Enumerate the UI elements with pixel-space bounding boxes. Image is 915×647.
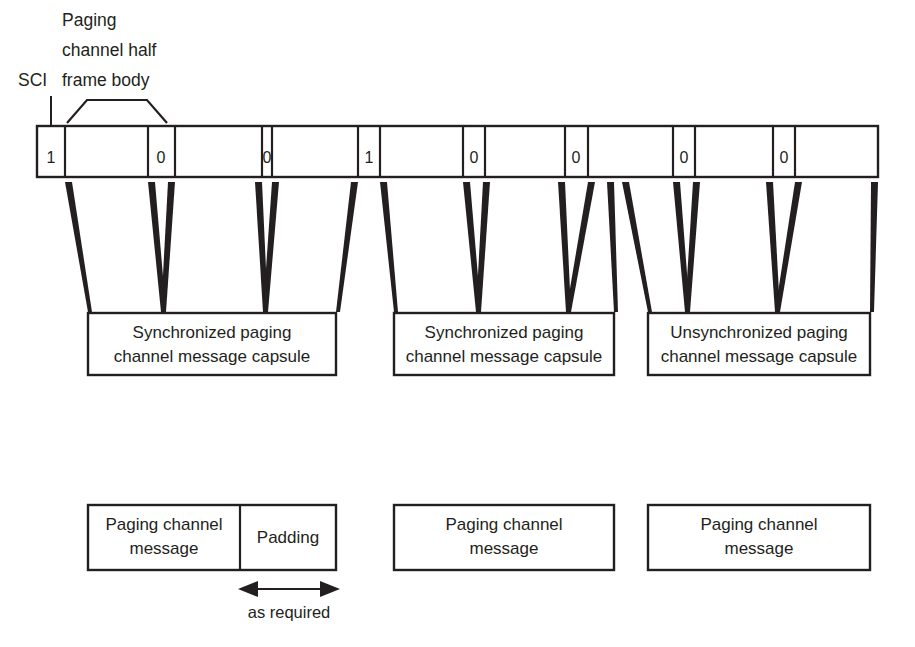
frame-bit-0: 1 [47,149,56,166]
capsule-box-1: Synchronized paging channel message caps… [88,313,336,375]
paging-channel-diagram: Paging channel half frame body SCI [0,0,915,647]
message-3-line2: message [725,539,794,558]
half-frame-label-line1: Paging [62,10,117,30]
capsule-connectors-3 [622,182,878,312]
message-box-1: Paging channel message Padding [88,505,336,570]
as-required-arrow [238,581,340,597]
message-1-segment-1-line1: Paging channel [105,515,222,534]
frame-bit-1: 0 [157,149,166,166]
frame-bit-7: 0 [780,149,789,166]
paging-channel-half-frame-timeline: 1 0 0 1 0 0 0 0 [37,126,878,177]
message-1-segment-1-line2: message [130,539,199,558]
half-frame-label-line3: frame body [62,70,150,90]
capsule-1-line2: channel message capsule [114,347,311,366]
message-box-2: Paging channel message [394,505,614,570]
half-frame-bracket [67,100,167,123]
message-2-line1: Paging channel [445,515,562,534]
diagram-canvas: Paging channel half frame body SCI [0,0,915,647]
frame-bit-5: 0 [572,149,581,166]
message-2-line2: message [470,539,539,558]
frame-bit-2: 0 [263,149,272,166]
capsule-box-3: Unsynchronized paging channel message ca… [648,313,870,375]
capsule-connectors-2 [380,182,618,312]
capsule-1-line1: Synchronized paging [133,323,292,342]
as-required-label: as required [248,603,331,621]
message-box-3: Paging channel message [648,505,870,570]
capsule-2-line1: Synchronized paging [425,323,584,342]
sci-label: SCI [18,70,47,90]
frame-bit-6: 0 [680,149,689,166]
capsule-3-line1: Unsynchronized paging [670,323,848,342]
message-1-segment-2-line1: Padding [257,528,319,547]
capsule-connectors-1 [65,182,358,312]
capsule-3-line2: channel message capsule [661,347,858,366]
half-frame-label-line2: channel half [62,40,157,60]
message-3-line1: Paging channel [700,515,817,534]
capsule-box-2: Synchronized paging channel message caps… [394,313,614,375]
frame-bit-3: 1 [365,149,374,166]
frame-bit-4: 0 [470,149,479,166]
capsule-2-line2: channel message capsule [406,347,603,366]
